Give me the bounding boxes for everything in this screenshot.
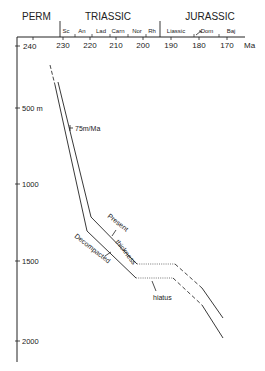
present-dashed — [175, 264, 202, 288]
present-curve — [58, 82, 137, 264]
tick-180: 180 — [192, 41, 206, 50]
tick-170: 170 — [220, 41, 234, 50]
tick-190: 190 — [164, 41, 178, 50]
tick-220: 220 — [83, 41, 97, 50]
hiatus-label: hiatus — [153, 294, 172, 301]
depth-1500: 1500 — [22, 257, 39, 266]
depth-2000: 2000 — [22, 337, 39, 346]
depth-1000: 1000 — [22, 180, 39, 189]
period-perm: PERM — [22, 11, 51, 22]
stage-an: An — [78, 28, 85, 34]
decompacted-final — [202, 305, 223, 338]
present-final — [202, 288, 223, 318]
present-label: Present — [106, 212, 129, 232]
period-jurassic: JURASSIC — [185, 11, 234, 22]
stage-dom: Dom — [201, 28, 214, 34]
stage-nor: Nor — [132, 28, 142, 34]
tick-200: 200 — [136, 41, 150, 50]
rate-label: 75m/Ma — [75, 125, 100, 132]
stage-rh: Rh — [148, 28, 156, 34]
tick-230: 230 — [56, 41, 70, 50]
thickness-label: thickness — [114, 238, 138, 266]
present-leader — [112, 230, 116, 236]
stage-liassic: Liassic — [167, 28, 185, 34]
initial-dashed-segment — [50, 65, 55, 85]
tick-210: 210 — [109, 41, 123, 50]
stage-carn: Carn — [111, 28, 124, 34]
stage-baj: Baj — [227, 28, 236, 34]
tick-240: 240 — [23, 42, 37, 51]
time-unit-ma: Ma — [244, 41, 256, 50]
depth-500: 500 m — [22, 104, 43, 113]
hiatus-leader — [152, 281, 156, 291]
stage-lad: Lad — [96, 28, 106, 34]
period-triassic: TRIASSIC — [85, 11, 131, 22]
decompacted-dashed — [173, 278, 202, 305]
stage-sc: Sc — [62, 28, 69, 34]
burial-history-diagram: PERM TRIASSIC JURASSIC Sc An Lad Carn No… — [0, 0, 265, 371]
